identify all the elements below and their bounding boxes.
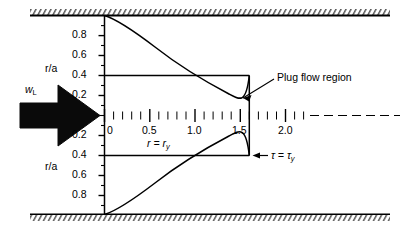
wall-hatching-bottom xyxy=(30,215,390,221)
bingham-velocity-profile-figure xyxy=(0,0,403,232)
wall-hatching-top xyxy=(30,9,390,15)
pipe-wall-top xyxy=(30,9,390,16)
pipe-wall-bottom xyxy=(30,215,390,222)
